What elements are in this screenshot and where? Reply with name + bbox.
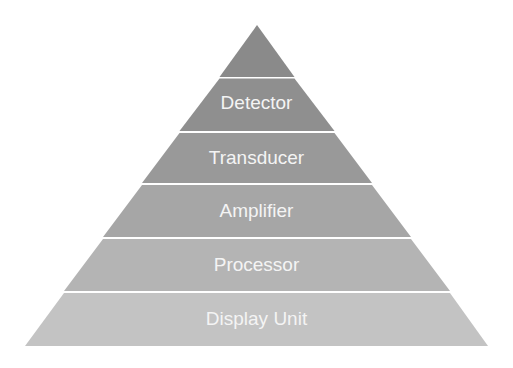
tier-label-transducer: Transducer [0, 147, 513, 169]
tier-label-display-unit: Display Unit [0, 308, 513, 330]
tier-label-amplifier: Amplifier [0, 200, 513, 222]
tier-label-processor: Processor [0, 254, 513, 276]
pyramid-apex [220, 25, 295, 77]
pyramid-diagram: Detector Transducer Amplifier Processor … [0, 0, 513, 368]
tier-label-detector: Detector [0, 92, 513, 114]
